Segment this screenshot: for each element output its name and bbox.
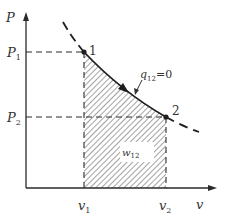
- v1-label: v1: [78, 198, 90, 215]
- state-point-1: [81, 49, 86, 54]
- x-axis-arrow-icon: [208, 185, 217, 191]
- curve-extension-right: [166, 117, 199, 132]
- state-point-2: [163, 114, 168, 119]
- curve-extension-left: [63, 22, 84, 52]
- y-axis-label: P: [5, 10, 15, 25]
- work-area: [84, 52, 166, 188]
- y-axis-arrow-icon: [23, 12, 29, 21]
- p2-label: P2: [6, 110, 21, 127]
- pv-diagram: P v P1 P2 v1 v2 1 2 q12=0 w12: [0, 0, 229, 221]
- annotation-leader: [134, 80, 142, 95]
- process-annotation: q12=0: [140, 68, 172, 83]
- y-axis: [23, 12, 29, 188]
- x-axis-label: v: [196, 197, 204, 212]
- point-2-label: 2: [172, 104, 180, 118]
- annotation-arrow-icon: [134, 88, 139, 95]
- v2-label: v2: [159, 198, 171, 215]
- p1-label: P1: [6, 45, 21, 62]
- point-1-label: 1: [89, 44, 97, 58]
